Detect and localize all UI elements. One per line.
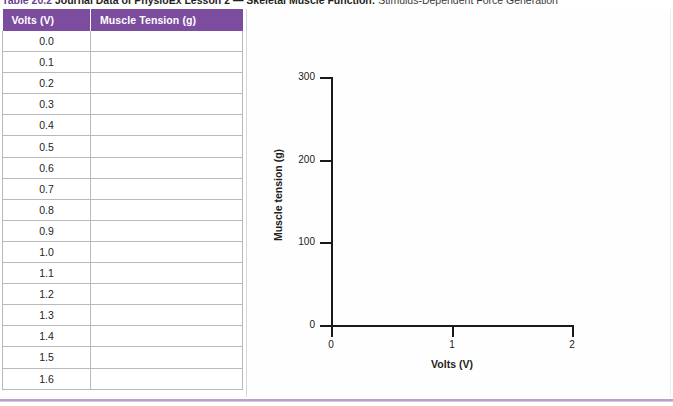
cell-volts: 1.6 <box>3 368 91 389</box>
cell-muscle-tension[interactable] <box>91 136 243 157</box>
chart-panel: 0 100 200 300 0 1 2 Volts (V) Muscle ten… <box>246 9 671 397</box>
bottom-rule-secondary <box>0 401 673 402</box>
table-row: 0.0 <box>3 31 243 52</box>
table-row: 1.5 <box>3 347 243 368</box>
figure-caption: Table 20.2 Journal Data of PhysioEx Less… <box>0 0 673 9</box>
plot-area: 0 100 200 300 0 1 2 Volts (V) Muscle ten… <box>247 9 672 397</box>
cell-muscle-tension[interactable] <box>91 220 243 241</box>
cell-volts: 1.2 <box>3 284 91 305</box>
table-row: 1.6 <box>3 368 243 389</box>
cell-muscle-tension[interactable] <box>91 284 243 305</box>
caption-title: Journal Data of PhysioEx Lesson 2 — Skel… <box>55 0 375 6</box>
cell-volts: 0.6 <box>3 157 91 178</box>
table-row: 1.2 <box>3 284 243 305</box>
cell-volts: 0.8 <box>3 199 91 220</box>
cell-volts: 1.0 <box>3 241 91 262</box>
column-header-muscle-tension: Muscle Tension (g) <box>91 9 243 31</box>
cell-muscle-tension[interactable] <box>91 94 243 115</box>
table-row: 0.2 <box>3 73 243 94</box>
table-row: 1.3 <box>3 305 243 326</box>
table-row: 0.1 <box>3 52 243 73</box>
cell-volts: 0.0 <box>3 31 91 52</box>
cell-muscle-tension[interactable] <box>91 73 243 94</box>
table-row: 1.1 <box>3 263 243 284</box>
table-row: 0.3 <box>3 94 243 115</box>
column-header-volts: Volts (V) <box>3 9 91 31</box>
cell-muscle-tension[interactable] <box>91 305 243 326</box>
table-row: 0.8 <box>3 199 243 220</box>
cell-volts: 0.7 <box>3 178 91 199</box>
data-table: Volts (V) Muscle Tension (g) 0.00.10.20.… <box>2 9 243 390</box>
y-tick-300 <box>320 77 332 79</box>
x-tick-0 <box>331 325 333 337</box>
cell-volts: 0.2 <box>3 73 91 94</box>
table-body: 0.00.10.20.30.40.50.60.70.80.91.01.11.21… <box>3 31 243 389</box>
cell-muscle-tension[interactable] <box>91 368 243 389</box>
x-axis-title: Volts (V) <box>331 358 573 370</box>
cell-volts: 1.3 <box>3 305 91 326</box>
cell-muscle-tension[interactable] <box>91 199 243 220</box>
cell-muscle-tension[interactable] <box>91 52 243 73</box>
table-row: 0.6 <box>3 157 243 178</box>
table-row: 1.0 <box>3 241 243 262</box>
cell-muscle-tension[interactable] <box>91 263 243 284</box>
x-tick-label-0: 0 <box>316 340 346 350</box>
x-tick-1 <box>452 325 454 337</box>
y-tick-100 <box>320 242 332 244</box>
y-axis-title: Muscle tension (g) <box>272 120 284 270</box>
cell-volts: 0.1 <box>3 52 91 73</box>
cell-muscle-tension[interactable] <box>91 241 243 262</box>
cell-muscle-tension[interactable] <box>91 157 243 178</box>
y-tick-200 <box>320 160 332 162</box>
table-row: 0.4 <box>3 115 243 136</box>
figure-body: 0 100 200 300 0 1 2 Volts (V) Muscle ten… <box>0 9 673 398</box>
cell-volts: 0.4 <box>3 115 91 136</box>
caption-table-number: Table 20.2 <box>2 0 52 6</box>
cell-volts: 0.5 <box>3 136 91 157</box>
x-tick-label-2: 2 <box>557 340 587 350</box>
y-tick-label-0: 0 <box>275 320 315 330</box>
cell-muscle-tension[interactable] <box>91 31 243 52</box>
table-row: 0.7 <box>3 178 243 199</box>
cell-muscle-tension[interactable] <box>91 347 243 368</box>
table-row: 0.9 <box>3 220 243 241</box>
cell-muscle-tension[interactable] <box>91 178 243 199</box>
cell-muscle-tension[interactable] <box>91 326 243 347</box>
cell-volts: 0.9 <box>3 220 91 241</box>
cell-volts: 1.5 <box>3 347 91 368</box>
table-row: 1.4 <box>3 326 243 347</box>
cell-volts: 1.1 <box>3 263 91 284</box>
cell-volts: 1.4 <box>3 326 91 347</box>
x-tick-2 <box>572 325 574 337</box>
y-tick-label-300: 300 <box>275 72 315 82</box>
table-header-row: Volts (V) Muscle Tension (g) <box>3 9 243 31</box>
x-tick-label-1: 1 <box>437 340 467 350</box>
caption-subtitle: Stimulus-Dependent Force Generation <box>378 0 558 6</box>
cell-volts: 0.3 <box>3 94 91 115</box>
table-row: 0.5 <box>3 136 243 157</box>
cell-muscle-tension[interactable] <box>91 115 243 136</box>
y-axis-line <box>331 77 333 326</box>
